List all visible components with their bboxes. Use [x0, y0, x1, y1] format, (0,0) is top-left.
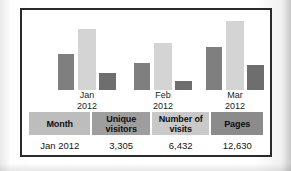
- x-axis-label-year: 2012: [196, 101, 274, 112]
- table-row: Jan 2012 3,305 6,432 12,630: [29, 136, 263, 154]
- stats-table: Month Unique visitors Number of visits: [29, 112, 263, 154]
- unique-visitors-line2: visitors: [106, 124, 137, 134]
- bar-number-of-visits-jan-2012: [78, 29, 96, 90]
- bar-chart: Jan2012Feb2012Mar2012: [22, 10, 270, 90]
- screenshot-root: Jan2012Feb2012Mar2012 Month Unique visit…: [0, 0, 291, 171]
- cell-month: Jan 2012: [29, 136, 90, 154]
- cell-number-of-visits: 6,432: [152, 136, 210, 154]
- panel-inner: Jan2012Feb2012Mar2012 Month Unique visit…: [22, 10, 270, 155]
- table-header-number-of-visits: Number of visits: [152, 112, 210, 135]
- unique-visitors-line1: Unique: [106, 114, 136, 124]
- table-header-number-of-visits-label: Number of visits: [159, 114, 203, 134]
- bar-unique-visitors-jan-2012: [58, 54, 74, 90]
- chart-panel: Jan2012Feb2012Mar2012 Month Unique visit…: [20, 8, 272, 157]
- x-axis-label-year: 2012: [124, 101, 202, 112]
- bar-pages-jan-2012: [99, 73, 116, 90]
- cell-pages: 12,630: [211, 136, 263, 154]
- x-axis-label-jan: Jan2012: [48, 90, 126, 112]
- number-of-visits-line1: Number of: [159, 114, 203, 124]
- table-header-pages: Pages: [211, 112, 263, 135]
- table-header-pages-label: Pages: [224, 119, 250, 129]
- x-axis-label-feb: Feb2012: [124, 90, 202, 112]
- x-axis-label-month: Mar: [227, 90, 243, 100]
- bar-pages-feb-2012: [175, 81, 192, 90]
- bar-unique-visitors-mar-2012: [206, 47, 222, 90]
- page-edge-shadow-right: [281, 0, 291, 171]
- table-header-month-label: Month: [46, 119, 73, 129]
- x-axis-label-year: 2012: [48, 101, 126, 112]
- number-of-visits-line2: visits: [169, 124, 191, 134]
- x-axis-label-mar: Mar2012: [196, 90, 274, 112]
- bar-number-of-visits-feb-2012: [154, 43, 172, 90]
- chart-plot-area: [30, 12, 262, 90]
- bar-unique-visitors-feb-2012: [134, 63, 150, 90]
- x-axis-label-month: Feb: [155, 90, 171, 100]
- table-header-row: Month Unique visitors Number of visits: [29, 112, 263, 135]
- bar-pages-mar-2012: [247, 65, 264, 90]
- page-edge-shadow-bottom: [0, 163, 291, 171]
- cell-unique-visitors: 3,305: [92, 136, 150, 154]
- x-axis-label-month: Jan: [80, 90, 95, 100]
- bar-number-of-visits-mar-2012: [226, 21, 244, 90]
- table-header-unique-visitors: Unique visitors: [92, 112, 150, 135]
- table-header-month: Month: [29, 112, 90, 135]
- table-header-unique-visitors-label: Unique visitors: [106, 114, 137, 134]
